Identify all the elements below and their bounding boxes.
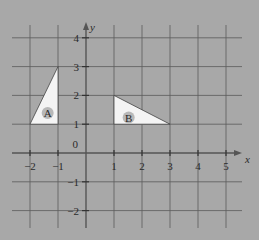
y-tick-label: −2 xyxy=(67,205,79,217)
origin-label: 0 xyxy=(73,138,79,150)
y-axis-label: y xyxy=(89,21,95,33)
x-tick-label: 1 xyxy=(111,160,117,172)
x-tick-label: 5 xyxy=(223,160,229,172)
x-tick-label: 2 xyxy=(139,160,145,172)
y-tick-label: 3 xyxy=(74,61,80,73)
x-axis-arrow-icon xyxy=(234,150,242,156)
y-tick-label: 1 xyxy=(74,118,80,130)
x-tick-label: −1 xyxy=(52,160,64,172)
coordinate-grid-diagram: xy AB −2−1123454321−1−20 xyxy=(0,0,259,240)
x-axis-label: x xyxy=(244,153,250,165)
y-tick-label: 4 xyxy=(74,32,80,44)
y-tick-label: −1 xyxy=(67,176,79,188)
x-tick-label: −2 xyxy=(24,160,36,172)
shape-label-a: A xyxy=(44,107,52,119)
grid-lines xyxy=(12,25,242,228)
y-tick-label: 2 xyxy=(74,89,80,101)
y-axis-arrow-icon xyxy=(83,22,89,30)
shape-label-b: B xyxy=(125,112,132,124)
x-tick-label: 4 xyxy=(195,160,201,172)
x-tick-label: 3 xyxy=(167,160,173,172)
grid-svg: xy AB −2−1123454321−1−20 xyxy=(0,0,259,240)
